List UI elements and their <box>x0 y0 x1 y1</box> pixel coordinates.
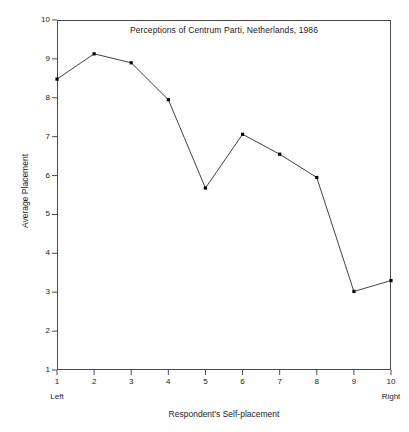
x-tick-label: 2 <box>79 377 109 386</box>
x-tick-label: 4 <box>153 377 183 386</box>
x-tick-label: 9 <box>339 377 369 386</box>
chart-figure: Perceptions of Centrum Parti, Netherland… <box>0 0 409 432</box>
x-tick-label: 10 <box>376 377 406 386</box>
x-axis-left-label: Left <box>37 392 77 401</box>
x-tick-label: 8 <box>302 377 332 386</box>
y-axis-title: Average Placement <box>20 121 30 261</box>
x-tick-label: 6 <box>228 377 258 386</box>
x-tick-label: 3 <box>116 377 146 386</box>
x-axis-right-label: Right <box>371 392 409 401</box>
x-axis-tick-labels: 12345678910LeftRight <box>0 0 409 432</box>
x-axis-title: Respondent's Self-placement <box>57 409 391 419</box>
x-tick-label: 1 <box>42 377 72 386</box>
x-tick-label: 7 <box>265 377 295 386</box>
x-tick-label: 5 <box>190 377 220 386</box>
